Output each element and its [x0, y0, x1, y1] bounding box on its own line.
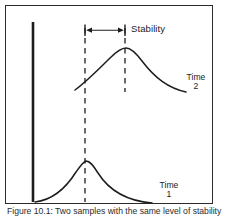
stability-label: Stability: [131, 24, 165, 34]
figure-caption: Figure 10.1: Two samples with the same l…: [7, 207, 223, 218]
time1-label: Time 1: [156, 181, 182, 199]
time2-label: Time 2: [183, 73, 209, 91]
curve-time1: [35, 161, 152, 203]
curve-time2: [75, 48, 186, 92]
plot-drawing: [0, 0, 227, 218]
figure-root: Stability Time 2 Time 1 Figure 10.1: Two…: [0, 0, 227, 218]
stability-arrow: [85, 25, 125, 37]
time1-label-number: 1: [156, 190, 182, 199]
time2-label-number: 2: [183, 82, 209, 91]
